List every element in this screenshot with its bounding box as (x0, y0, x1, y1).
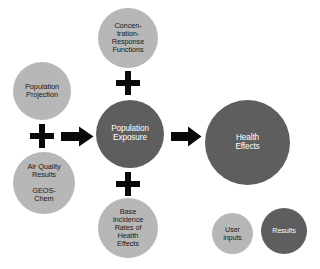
node-population-projection-label: Population Projection (13, 83, 71, 99)
arrow-right-icon-shape (171, 126, 202, 147)
node-air-quality-results: Air Quality Results GEOS- Chem (13, 152, 75, 214)
legend-item-results: Results (261, 208, 307, 254)
arrow-right-icon-shape (61, 126, 94, 147)
plus-icon-top (116, 71, 140, 95)
node-population-projection: Population Projection (13, 62, 71, 120)
node-air-quality-results-label: Air Quality Results GEOS- Chem (13, 163, 75, 203)
plus-icon-left (30, 124, 54, 148)
plus-icon-bottom (116, 172, 140, 196)
node-population-exposure-label: Population Exposure (96, 125, 164, 143)
node-health-effects-label: Health Effects (205, 134, 290, 152)
node-concentration-response-functions-label: Concen- tration- Response Functions (98, 22, 158, 54)
legend-item-results-label: Results (261, 227, 307, 235)
arrow-right-icon-to-health-effects (171, 126, 202, 147)
node-health-effects: Health Effects (205, 100, 290, 185)
node-concentration-response-functions: Concen- tration- Response Functions (98, 8, 158, 68)
node-base-incidence-rates-label: Base Incidence Rates of Health Effects (98, 208, 158, 248)
legend-item-user-inputs: User inputs (212, 213, 253, 254)
arrow-right-icon-to-population-exposure (61, 126, 94, 147)
flow-diagram: Population Projection Air Quality Result… (0, 0, 320, 269)
node-population-exposure: Population Exposure (96, 100, 164, 168)
legend-item-user-inputs-label: User inputs (212, 226, 253, 242)
node-base-incidence-rates: Base Incidence Rates of Health Effects (98, 198, 158, 258)
